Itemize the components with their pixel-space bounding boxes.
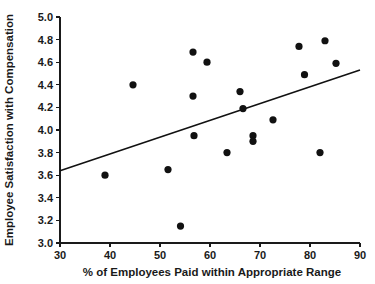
y-tick-label: 4.4 bbox=[38, 79, 54, 91]
data-point bbox=[269, 116, 276, 123]
data-point bbox=[101, 172, 108, 179]
regression-line bbox=[60, 70, 360, 171]
data-point bbox=[164, 166, 171, 173]
x-tick-label: 80 bbox=[304, 249, 316, 261]
y-tick-label: 3.8 bbox=[38, 147, 53, 159]
scatter-plot-figure: 3.03.23.43.63.84.04.24.44.64.85.0 304050… bbox=[0, 0, 375, 284]
y-tick-label: 3.2 bbox=[38, 214, 53, 226]
data-point bbox=[332, 60, 339, 67]
data-point bbox=[249, 138, 256, 145]
data-point bbox=[236, 88, 243, 95]
y-tick-label: 4.8 bbox=[38, 34, 53, 46]
x-axis: 30405060708090 bbox=[54, 243, 366, 261]
data-point bbox=[189, 48, 196, 55]
data-point bbox=[203, 59, 210, 66]
data-point bbox=[239, 105, 246, 112]
data-point bbox=[295, 43, 302, 50]
trend-line bbox=[60, 70, 360, 171]
y-axis: 3.03.23.43.63.84.04.24.44.64.85.0 bbox=[38, 11, 60, 249]
data-point bbox=[190, 132, 197, 139]
data-point bbox=[321, 37, 328, 44]
y-tick-label: 4.6 bbox=[38, 56, 53, 68]
x-tick-label: 70 bbox=[254, 249, 266, 261]
x-axis-title: % of Employees Paid within Appropriate R… bbox=[83, 266, 341, 278]
y-tick-label: 3.0 bbox=[38, 237, 53, 249]
data-point bbox=[177, 222, 184, 229]
data-point bbox=[189, 93, 196, 100]
y-tick-label: 4.2 bbox=[38, 101, 53, 113]
y-tick-label: 5.0 bbox=[38, 11, 53, 23]
x-tick-label: 90 bbox=[354, 249, 366, 261]
y-axis-title: Employee Satisfaction with Compensation bbox=[3, 14, 15, 246]
data-point bbox=[316, 149, 323, 156]
y-tick-label: 3.6 bbox=[38, 169, 53, 181]
x-tick-label: 40 bbox=[104, 249, 116, 261]
data-points bbox=[101, 37, 339, 230]
y-tick-label: 4.0 bbox=[38, 124, 53, 136]
y-tick-label: 3.4 bbox=[38, 192, 54, 204]
x-tick-label: 30 bbox=[54, 249, 66, 261]
chart-canvas: 3.03.23.43.63.84.04.24.44.64.85.0 304050… bbox=[0, 0, 375, 284]
x-tick-label: 60 bbox=[204, 249, 216, 261]
data-point bbox=[223, 149, 230, 156]
x-tick-label: 50 bbox=[154, 249, 166, 261]
data-point bbox=[301, 71, 308, 78]
data-point bbox=[129, 81, 136, 88]
